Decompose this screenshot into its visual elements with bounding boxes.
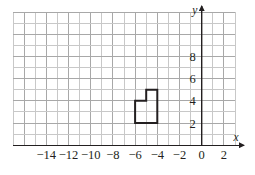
x-axis-tick-label: −4 <box>151 148 165 162</box>
coordinate-plane-figure: −14−12−10−8−6−4−2022468xy <box>0 0 255 175</box>
x-axis-tick-label: 2 <box>221 148 227 162</box>
y-axis-tick-label: 6 <box>189 72 195 86</box>
x-axis-tick-label: −8 <box>106 148 119 162</box>
x-axis-tick-label: 0 <box>199 148 205 162</box>
x-axis-name-label: x <box>232 131 239 143</box>
x-axis-tick-labels: −14−12−10−8−6−4−202 <box>37 148 228 162</box>
x-axis-tick-label: −2 <box>173 148 186 162</box>
coordinate-plane-svg: −14−12−10−8−6−4−2022468xy <box>0 0 255 175</box>
x-axis-tick-label: −10 <box>81 148 101 162</box>
y-axis-tick-label: 8 <box>189 50 195 64</box>
x-axis-tick-label: −12 <box>59 148 79 162</box>
y-axis-tick-label: 4 <box>189 94 196 108</box>
x-axis-tick-label: −6 <box>128 148 141 162</box>
y-axis-name-label: y <box>191 4 198 17</box>
y-axis-tick-label: 2 <box>189 117 195 131</box>
x-axis-tick-label: −14 <box>37 148 57 162</box>
